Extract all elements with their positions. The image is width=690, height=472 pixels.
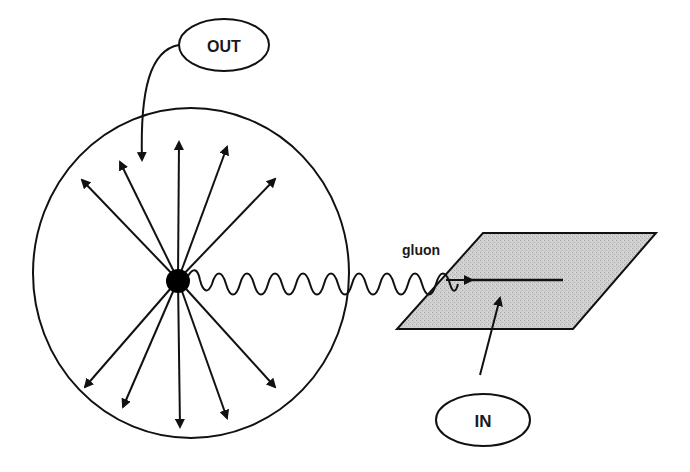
arrow-down [178,280,180,427]
arrow-right-down [178,280,275,387]
arrow-down-right [178,280,227,418]
arrow-down-left [123,280,178,407]
gluon-label: gluon [402,242,440,258]
gluon-wave [188,270,458,294]
gluon-diagram: gluon OUT IN [0,0,690,472]
arrow-right-up [178,179,275,280]
source-dot [166,269,190,293]
out-pointer-arrow [142,45,179,160]
arrow-up-left [120,162,178,280]
arrow-up-right [178,147,227,280]
arrow-left-up [82,180,178,280]
in-label: IN [475,412,492,431]
arrow-left-down [85,280,178,387]
arrow-up [178,142,179,280]
out-label: OUT [207,38,241,55]
